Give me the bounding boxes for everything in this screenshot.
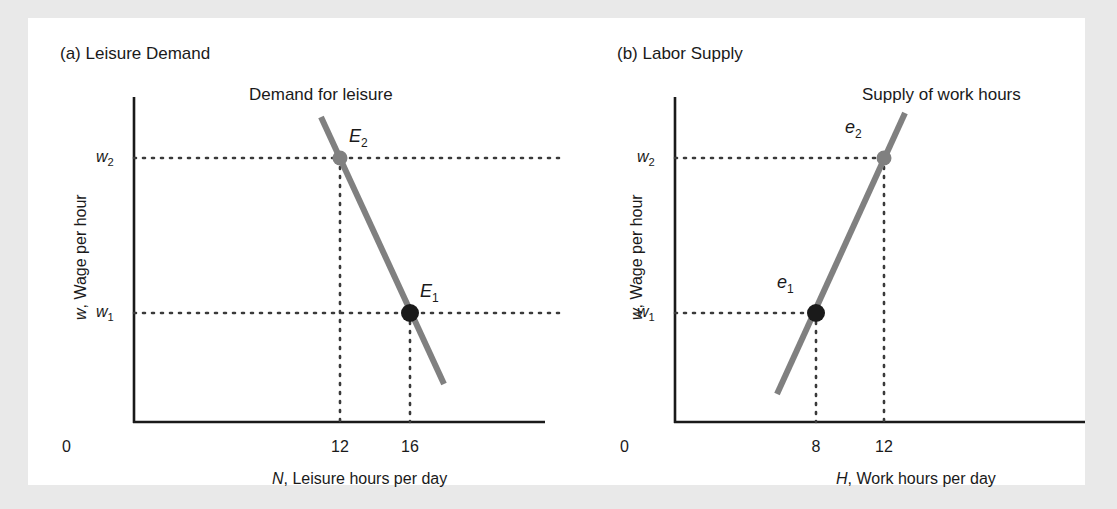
figure-root: (a) Leisure Demand (b) Labor Supply w, W… xyxy=(0,0,1117,509)
point-label-E2: E2 xyxy=(349,126,368,150)
panel-a-y-axis-label: w, Wage per hour xyxy=(72,194,90,320)
panel-a-origin-label: 0 xyxy=(62,438,71,456)
panel-a-xtick-12: 12 xyxy=(322,438,358,456)
panel-a-x-axis-label: N, Leisure hours per day xyxy=(272,470,447,488)
demand-curve-label: Demand for leisure xyxy=(249,85,393,105)
panel-b-ytick-w1: w1 xyxy=(637,303,655,323)
point-label-e2: e2 xyxy=(845,117,862,141)
panel-b-x-axis-label: H, Work hours per day xyxy=(836,470,996,488)
panel-b-y-axis-label: w, Wage per hour xyxy=(628,194,646,320)
panel-b-title: (b) Labor Supply xyxy=(617,44,743,64)
panel-b-xtick-12: 12 xyxy=(866,438,902,456)
panel-b-ytick-w2: w2 xyxy=(637,148,655,168)
panel-b-xtick-8: 8 xyxy=(798,438,834,456)
point-label-E1: E1 xyxy=(420,281,439,305)
panel-a-title: (a) Leisure Demand xyxy=(60,44,210,64)
supply-curve-label: Supply of work hours xyxy=(862,85,1021,105)
panel-a-ytick-w2: w2 xyxy=(96,148,114,168)
point-label-e1: e1 xyxy=(777,272,794,296)
panel-b-origin-label: 0 xyxy=(620,438,629,456)
panel-a-ytick-w1: w1 xyxy=(96,303,114,323)
panel-a-xtick-16: 16 xyxy=(392,438,428,456)
